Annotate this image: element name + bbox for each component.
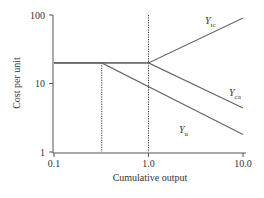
learning-curve-chart: 110100 0.11.010.0 YtcYcaYu Cumulative ou… bbox=[0, 0, 264, 198]
x-tick-label: 1.0 bbox=[142, 158, 155, 169]
y-axis-label: Cost per unit bbox=[11, 57, 22, 109]
series-label-y-ca: Yca bbox=[229, 87, 242, 101]
x-tick-label: 10.0 bbox=[234, 158, 252, 169]
x-axis-label: Cumulative output bbox=[113, 172, 188, 183]
series-label-y-tc: Ytc bbox=[205, 15, 216, 29]
series-label-y-u: Yu bbox=[179, 124, 189, 138]
y-axis-ticks: 110100 bbox=[30, 10, 53, 158]
y-tick-label: 1 bbox=[40, 147, 45, 158]
x-axis-ticks: 0.11.010.0 bbox=[48, 153, 252, 169]
y-tick-label: 10 bbox=[35, 78, 45, 89]
x-tick-label: 0.1 bbox=[48, 158, 61, 169]
y-tick-label: 100 bbox=[30, 10, 45, 21]
series-lines bbox=[54, 18, 243, 134]
axes bbox=[53, 15, 246, 153]
